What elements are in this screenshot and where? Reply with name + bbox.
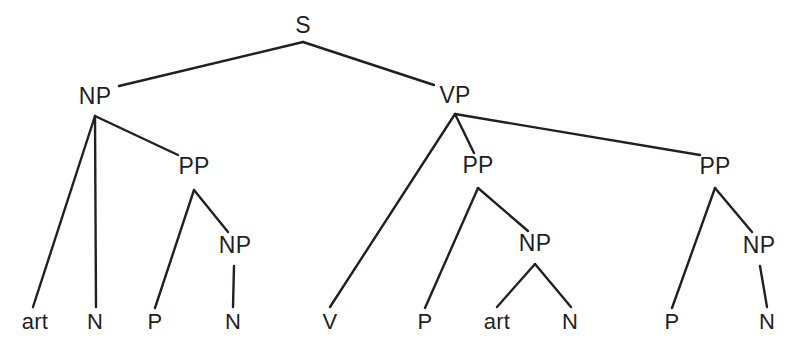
tree-edge-np4-n4 — [760, 266, 767, 307]
tree-edge-pp3-p3 — [672, 188, 715, 308]
terminal-node-v1: V — [323, 311, 338, 333]
terminal-node-n4: N — [759, 311, 775, 333]
tree-edge-pp3-np4 — [715, 188, 752, 232]
terminal-node-art1: art — [22, 311, 48, 333]
tree-edge-vp-v1 — [330, 114, 455, 307]
phrase-node-s: S — [295, 14, 311, 37]
terminal-node-n1: N — [87, 311, 103, 333]
phrase-node-np1: NP — [79, 85, 111, 108]
tree-edge-vp-pp3 — [455, 114, 700, 155]
terminal-node-n2: N — [225, 311, 241, 333]
tree-edge-pp1-p1 — [155, 190, 194, 308]
tree-edge-pp2-p2 — [425, 188, 478, 308]
terminal-node-n3: N — [562, 311, 578, 333]
tree-edge-np3-art2 — [497, 264, 535, 307]
tree-edge-np1-pp1 — [95, 116, 178, 155]
terminal-node-p3: P — [665, 311, 680, 333]
phrase-node-np3: NP — [519, 232, 551, 255]
syntax-tree-figure: SNPVPPPPPPPNPNPNPartNPNVPartNPN — [0, 0, 794, 354]
tree-edge-vp-pp2 — [455, 114, 474, 153]
tree-edge-pp2-np3 — [478, 188, 528, 231]
tree-edge-s-np1 — [119, 42, 303, 86]
phrase-node-np2: NP — [219, 234, 251, 257]
phrase-node-pp1: PP — [178, 155, 209, 178]
phrase-node-pp2: PP — [462, 154, 493, 177]
terminal-node-p1: P — [148, 311, 163, 333]
phrase-node-np4: NP — [743, 234, 775, 257]
tree-edge-pp1-np2 — [194, 190, 228, 232]
tree-edge-s-vp — [303, 42, 434, 85]
tree-edge-np3-n3 — [535, 264, 571, 307]
terminal-node-art2: art — [484, 311, 510, 333]
phrase-node-pp3: PP — [699, 155, 730, 178]
tree-edge-np2-n2 — [233, 266, 234, 307]
phrase-node-vp: VP — [439, 84, 470, 107]
tree-edge-np1-n1 — [95, 116, 96, 307]
terminal-node-p2: P — [418, 311, 433, 333]
tree-edge-layer — [0, 0, 794, 354]
tree-edge-np1-art1 — [33, 116, 95, 307]
